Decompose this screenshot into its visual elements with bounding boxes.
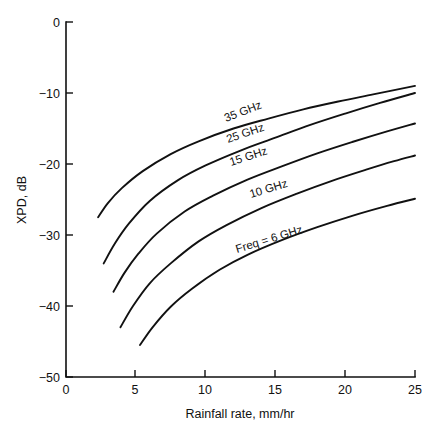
y-tick-label-0: 0 bbox=[53, 16, 60, 30]
x-tick-label-15: 15 bbox=[268, 383, 282, 397]
y-tick-label-10: −10 bbox=[39, 87, 60, 101]
series-label-6ghz: Freq = 6 GHz bbox=[234, 223, 304, 255]
x-tick-label-5: 5 bbox=[132, 383, 139, 397]
xpd-rainfall-chart: 0 −10 −20 −30 −40 −50 0 5 10 15 20 25 Ra… bbox=[0, 0, 434, 429]
series-label-35ghz: 35 GHz bbox=[222, 99, 263, 124]
y-tick-label-50: −50 bbox=[39, 371, 60, 385]
curve-10ghz bbox=[140, 199, 415, 345]
y-tick-label-20: −20 bbox=[39, 158, 60, 172]
x-axis-title: Rainfall rate, mm/hr bbox=[185, 407, 294, 421]
x-tick-label-10: 10 bbox=[198, 383, 212, 397]
series-label-10ghz: 10 GHz bbox=[248, 177, 289, 200]
x-tick-labels: 0 5 10 15 20 25 bbox=[63, 383, 422, 397]
y-tick-label-30: −30 bbox=[39, 229, 60, 243]
x-tick-label-0: 0 bbox=[63, 383, 70, 397]
x-tick-label-20: 20 bbox=[338, 383, 352, 397]
y-tick-label-40: −40 bbox=[39, 300, 60, 314]
series-labels: 35 GHz 25 GHz 15 GHz 10 GHz Freq = 6 GHz bbox=[222, 99, 304, 255]
y-tick-labels: 0 −10 −20 −30 −40 −50 bbox=[39, 16, 60, 385]
x-tick-label-25: 25 bbox=[408, 383, 422, 397]
axis-frame bbox=[66, 22, 415, 377]
y-axis-title: XPD, dB bbox=[15, 176, 29, 224]
x-tick-marks bbox=[66, 370, 415, 377]
y-tick-marks bbox=[66, 22, 73, 377]
plot-area: 0 −10 −20 −30 −40 −50 0 5 10 15 20 25 Ra… bbox=[0, 0, 434, 429]
